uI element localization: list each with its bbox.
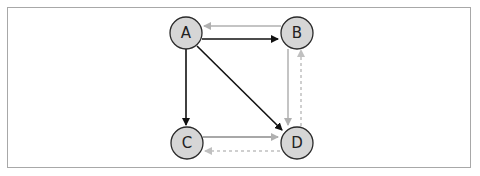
node-a-label: A (181, 24, 192, 42)
node-b-label: B (292, 24, 302, 42)
node-d-label: D (291, 134, 303, 152)
node-b: B (281, 17, 313, 49)
node-c-label: C (182, 134, 192, 152)
edge-a-to-d (197, 46, 282, 130)
graph-canvas: A B C D (0, 0, 480, 176)
node-c: C (171, 127, 203, 159)
node-a: A (170, 17, 202, 49)
node-d: D (281, 127, 313, 159)
